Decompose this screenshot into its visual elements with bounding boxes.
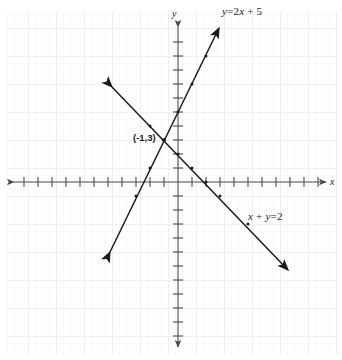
coordinate-plane-svg bbox=[0, 0, 342, 360]
line-a-xvar: x bbox=[239, 5, 244, 17]
line-b-const: 2 bbox=[277, 210, 283, 222]
line-b-equation-label: x + y=2 bbox=[248, 210, 283, 222]
grid-background bbox=[7, 11, 337, 355]
line-a-const: 5 bbox=[257, 5, 263, 17]
line-b-xvar: x bbox=[248, 210, 253, 222]
line-a-equation-label: y=2x + 5 bbox=[222, 5, 262, 17]
intersection-point-label: (-1,3) bbox=[133, 132, 156, 143]
y-axis-label: y bbox=[172, 8, 176, 19]
line-a-plus: + bbox=[247, 5, 253, 17]
x-axis-label: x bbox=[330, 176, 334, 187]
line-b-plus: + bbox=[256, 210, 262, 222]
graph-figure: y=2x + 5 x + y=2 (-1,3) x y bbox=[0, 0, 342, 360]
intersection-point-marker bbox=[162, 138, 166, 142]
